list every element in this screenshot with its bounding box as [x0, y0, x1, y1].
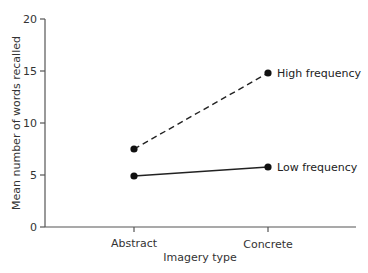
- series-line-low-frequency: [134, 167, 268, 176]
- y-ticks: [40, 19, 45, 227]
- y-tick-label-10: 10: [23, 117, 37, 130]
- series-label-high-frequency: High frequency: [277, 67, 361, 80]
- y-tick-label-20: 20: [23, 13, 37, 26]
- line-chart: 0 5 10 15 20 Abstract Concrete Imagery t…: [0, 0, 368, 273]
- y-tick-label-15: 15: [23, 65, 37, 78]
- data-point-high-abstract: [130, 145, 137, 152]
- x-tick-label-abstract: Abstract: [111, 237, 158, 250]
- y-tick-label-0: 0: [30, 221, 37, 234]
- y-axis-title: Mean number of words recalled: [10, 36, 23, 210]
- data-point-low-concrete: [264, 163, 271, 170]
- data-point-low-abstract: [130, 172, 137, 179]
- series-line-high-frequency: [134, 73, 268, 149]
- x-tick-label-concrete: Concrete: [243, 238, 293, 251]
- x-ticks: [134, 227, 268, 232]
- series-label-low-frequency: Low frequency: [277, 161, 358, 174]
- y-tick-label-5: 5: [30, 169, 37, 182]
- x-axis-title: Imagery type: [163, 251, 237, 264]
- data-point-high-concrete: [264, 69, 271, 76]
